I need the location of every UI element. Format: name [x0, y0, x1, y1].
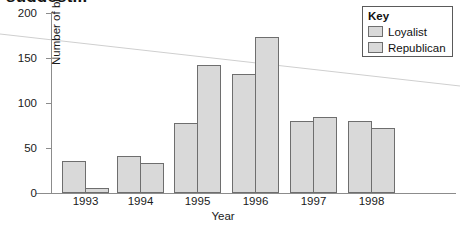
y-tick-label-100: 100 — [18, 97, 37, 109]
x-tick-label: 1993 — [73, 195, 99, 207]
y-tick-label-50: 50 — [24, 142, 37, 154]
x-tick-label: 1996 — [243, 195, 269, 207]
bar-republican[interactable] — [371, 128, 395, 193]
y-axis-title: Number of beatings — [50, 0, 62, 65]
legend: Key Loyalist Republican — [362, 6, 453, 57]
x-axis-line — [36, 193, 456, 194]
y-tick-200: 200 — [46, 13, 52, 14]
legend-swatch-icon — [368, 42, 383, 53]
bar-republican[interactable] — [140, 163, 164, 193]
x-tick-label: 1995 — [185, 195, 211, 207]
bar-loyalist[interactable] — [117, 156, 141, 193]
y-tick-100: 100 — [46, 103, 52, 104]
bar-republican[interactable] — [197, 65, 221, 193]
bar-loyalist[interactable] — [348, 121, 372, 193]
bar-group: 1995 — [174, 13, 221, 193]
y-tick-label-150: 150 — [18, 52, 37, 64]
x-tick-label: 1994 — [128, 195, 154, 207]
x-tick-label: 1997 — [301, 195, 327, 207]
y-tick-50: 50 — [46, 148, 52, 149]
y-tick-label-200: 200 — [18, 7, 37, 19]
bar-group: 1996 — [232, 13, 279, 193]
bar-group: 1994 — [117, 13, 164, 193]
legend-label: Republican — [388, 42, 446, 54]
x-axis-title: Year — [22, 210, 424, 222]
bar-loyalist[interactable] — [290, 121, 314, 193]
legend-label: Loyalist — [388, 26, 427, 38]
legend-item-republican[interactable]: Republican — [368, 40, 447, 55]
legend-item-loyalist[interactable]: Loyalist — [368, 24, 447, 39]
page-title: suggest... — [6, 0, 87, 2]
y-tick-150: 150 — [46, 58, 52, 59]
bar-republican[interactable] — [255, 37, 279, 193]
bar-republican[interactable] — [313, 117, 337, 193]
bar-republican[interactable] — [85, 188, 109, 193]
x-tick-label: 1998 — [359, 195, 385, 207]
legend-title: Key — [368, 10, 447, 23]
bar-loyalist[interactable] — [62, 161, 86, 193]
y-tick-0: 0 — [46, 193, 52, 194]
y-tick-label-0: 0 — [31, 187, 37, 199]
bar-loyalist[interactable] — [174, 123, 198, 193]
bar-group: 1993 — [62, 13, 109, 193]
bar-loyalist[interactable] — [232, 74, 256, 193]
legend-swatch-icon — [368, 26, 383, 37]
bar-group: 1997 — [290, 13, 337, 193]
